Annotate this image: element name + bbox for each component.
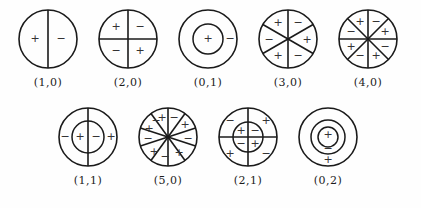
mode-diagram-mode-4-0: +−−++−−+ <box>335 6 401 72</box>
mode-diagram-mode-2-0: +−−+ <box>95 6 161 72</box>
mode-cell-mode-3-0: +−−++−(3,0) <box>255 6 321 89</box>
sign-minus: − <box>293 16 302 29</box>
mode-cell-mode-1-1: −+−+(1,1) <box>55 104 121 187</box>
sign-plus: + <box>30 32 39 45</box>
sign-minus: − <box>183 132 192 145</box>
sign-minus: − <box>151 114 160 127</box>
mode-label-mode-1-0: (1,0) <box>34 76 63 89</box>
sign-minus: − <box>371 15 380 28</box>
sign-plus: + <box>149 145 158 158</box>
sign-minus: − <box>261 147 270 160</box>
sign-minus: − <box>264 33 273 46</box>
mode-label-mode-2-1: (2,1) <box>234 174 263 187</box>
sign-plus: + <box>302 33 311 46</box>
sign-plus: + <box>355 15 364 28</box>
sign-minus: − <box>169 111 178 124</box>
mode-cell-mode-2-0: +−−+(2,0) <box>95 6 161 89</box>
mode-cell-mode-0-1: +−(0,1) <box>175 6 241 89</box>
sign-minus: − <box>250 124 259 137</box>
sign-plus: + <box>225 147 234 160</box>
mode-cell-mode-0-2: +−+(0,2) <box>295 104 361 187</box>
sign-minus: − <box>236 137 245 150</box>
mode-label-mode-1-1: (1,1) <box>74 174 103 187</box>
mode-diagram-mode-2-1: −++−−++− <box>215 104 281 170</box>
sign-plus: + <box>75 130 84 143</box>
mode-diagram-mode-3-0: +−−++− <box>255 6 321 72</box>
mode-row-top: +−(1,0)+−−+(2,0)+−(0,1)+−−++−(3,0)+−−++−… <box>8 6 408 89</box>
sign-plus: + <box>135 44 144 57</box>
sign-minus: − <box>160 150 169 163</box>
mode-cell-mode-2-1: −++−−++−(2,1) <box>215 104 281 187</box>
mode-label-mode-5-0: (5,0) <box>154 174 183 187</box>
mode-diagram-mode-1-0: +− <box>15 6 81 72</box>
sign-minus: − <box>60 130 69 143</box>
sign-minus: − <box>355 49 364 62</box>
sign-plus: + <box>106 130 115 143</box>
sign-plus: + <box>203 32 212 45</box>
sign-plus: + <box>346 40 355 53</box>
sign-minus: − <box>225 32 234 45</box>
mode-cell-mode-1-0: +−(1,0) <box>15 6 81 89</box>
mode-diagram-mode-0-2: +−+ <box>295 104 361 170</box>
mode-cell-mode-4-0: +−−++−−+(4,0) <box>335 6 401 89</box>
sign-minus: − <box>293 49 302 62</box>
sign-plus: + <box>261 114 270 127</box>
sign-plus: + <box>273 16 282 29</box>
mode-diagram-mode-0-1: +− <box>175 6 241 72</box>
mode-label-mode-0-2: (0,2) <box>314 174 343 187</box>
sign-plus: + <box>323 128 332 141</box>
mode-label-mode-0-1: (0,1) <box>194 76 223 89</box>
sign-plus: + <box>380 25 389 38</box>
mode-cell-mode-5-0: +−+−+−+−+−(5,0) <box>135 104 201 187</box>
sign-plus: + <box>111 20 120 33</box>
sign-minus: − <box>225 114 234 127</box>
sign-plus: + <box>323 153 332 166</box>
sign-minus: − <box>91 130 100 143</box>
mode-label-mode-3-0: (3,0) <box>274 76 303 89</box>
mode-diagram-mode-5-0: +−+−+−+−+− <box>135 104 201 170</box>
figure-sheet: +−(1,0)+−−+(2,0)+−(0,1)+−−++−(3,0)+−−++−… <box>0 0 421 208</box>
sign-plus: + <box>236 124 245 137</box>
sign-plus: + <box>174 146 183 159</box>
mode-row-bottom: −+−+(1,1)+−+−+−+−+−(5,0)−++−−++−(2,1)+−+… <box>48 104 368 187</box>
sign-plus: + <box>371 49 380 62</box>
sign-minus: − <box>346 25 355 38</box>
sign-minus: − <box>56 32 65 45</box>
sign-plus: + <box>180 118 189 131</box>
mode-label-mode-4-0: (4,0) <box>354 76 383 89</box>
mode-label-mode-2-0: (2,0) <box>114 76 143 89</box>
sign-minus: − <box>380 40 389 53</box>
sign-minus: − <box>111 44 120 57</box>
sign-plus: + <box>250 137 259 150</box>
mode-diagram-mode-1-1: −+−+ <box>55 104 121 170</box>
sign-minus: − <box>135 20 144 33</box>
sign-plus: + <box>273 49 282 62</box>
